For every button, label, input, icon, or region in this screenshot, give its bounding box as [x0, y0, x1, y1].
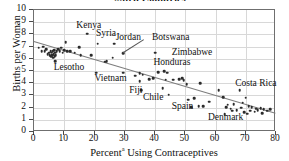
data-point: [182, 79, 185, 82]
annotation-label-lesotho: Lesotho: [54, 62, 85, 72]
y-tick: [29, 119, 33, 120]
data-point: [142, 73, 145, 76]
data-point: [240, 106, 243, 109]
annotation-label-zimbabwe: Zimbabwe: [172, 47, 213, 57]
annotation-label-vietnam: Vietnam: [95, 73, 127, 83]
x-tick-label: 30: [114, 133, 134, 143]
data-point: [167, 93, 170, 96]
data-point: [154, 51, 157, 54]
gridline-horizontal: [34, 22, 274, 23]
data-point: [166, 72, 169, 75]
data-point: [54, 54, 57, 57]
x-axis-title: Percenta Using Contraceptives: [33, 145, 275, 158]
annotation-label-spain: Spain: [172, 101, 194, 111]
y-tick-label: 1: [12, 114, 26, 123]
data-point: [238, 89, 241, 92]
chart-title: ...ited Countries: [60, 0, 240, 1]
data-point: [244, 97, 247, 100]
data-point: [148, 78, 151, 81]
data-point: [226, 103, 229, 106]
data-point: [249, 109, 252, 112]
annotation-label-chile: Chile: [143, 92, 164, 102]
data-point: [232, 103, 235, 106]
gridline-vertical: [185, 10, 186, 130]
y-tick: [29, 82, 33, 83]
data-point: [113, 42, 116, 45]
y-tick: [29, 21, 33, 22]
data-point: [251, 106, 254, 109]
data-point: [193, 97, 196, 100]
x-tick-label: 10: [53, 133, 73, 143]
x-tick-label: 80: [265, 133, 285, 143]
data-point: [161, 87, 164, 90]
data-point: [222, 96, 225, 99]
data-point: [69, 50, 72, 53]
annotation-label-jordan: Jordan: [116, 32, 141, 42]
data-point: [172, 78, 175, 81]
x-tick-label: 40: [144, 133, 164, 143]
plot-area: KenyaSyriaJordanBotswanaZimbabweHonduras…: [33, 9, 275, 131]
x-tick-label: 50: [174, 133, 194, 143]
data-point: [96, 42, 99, 45]
data-point: [261, 112, 264, 115]
y-tick: [29, 9, 33, 10]
data-point: [152, 77, 155, 80]
annotation-label-botswana: Botswana: [152, 32, 189, 42]
data-point: [139, 80, 142, 83]
gridline-vertical: [155, 10, 156, 130]
x-tick-label: 20: [84, 133, 104, 143]
data-point: [246, 112, 249, 115]
data-point: [61, 51, 64, 54]
x-tick-label: 0: [23, 133, 43, 143]
x-axis-title-main: Percent: [90, 147, 122, 158]
x-tick-label: 70: [235, 133, 255, 143]
annotation-label-honduras: Honduras: [153, 57, 190, 67]
data-point: [185, 83, 188, 86]
y-tick: [29, 107, 33, 108]
data-point: [80, 54, 83, 57]
data-point: [202, 105, 205, 108]
annotation-label-denmark: Denmark: [208, 112, 243, 122]
gridline-vertical: [125, 10, 126, 130]
data-point: [105, 60, 108, 63]
data-point: [78, 46, 81, 49]
y-tick: [29, 46, 33, 47]
x-axis-title-rest: Using Contraceptives: [125, 147, 218, 158]
y-tick: [29, 33, 33, 34]
data-point: [208, 100, 211, 103]
data-point: [199, 82, 202, 85]
data-point: [134, 75, 137, 78]
x-tick-label: 60: [205, 133, 225, 143]
data-point: [198, 105, 201, 108]
y-tick: [29, 70, 33, 71]
gridline-horizontal: [34, 47, 274, 48]
data-point: [64, 41, 67, 44]
annotation-label-fiji: Fiji: [129, 85, 142, 95]
y-tick-label: 0: [12, 126, 26, 135]
data-point: [90, 54, 93, 57]
gridline-horizontal: [34, 108, 274, 109]
data-point: [269, 108, 272, 111]
y-axis-title: Births per Woman: [11, 0, 22, 108]
data-point: [74, 51, 77, 54]
chart-container: ...ited Countries KenyaSyriaJordanBotswa…: [0, 0, 289, 161]
y-tick: [29, 94, 33, 95]
data-point: [217, 89, 220, 92]
data-point: [86, 32, 89, 35]
data-point: [157, 71, 160, 74]
data-point: [45, 48, 48, 51]
data-point: [37, 47, 40, 50]
data-point: [225, 106, 228, 109]
y-tick: [29, 58, 33, 59]
data-point: [111, 56, 114, 59]
y-tick: [29, 131, 33, 132]
annotation-label-costa-rica: Costa Rica: [235, 78, 276, 88]
annotation-label-syria: Syria: [96, 28, 116, 38]
data-point: [164, 78, 167, 81]
data-point: [241, 101, 244, 104]
